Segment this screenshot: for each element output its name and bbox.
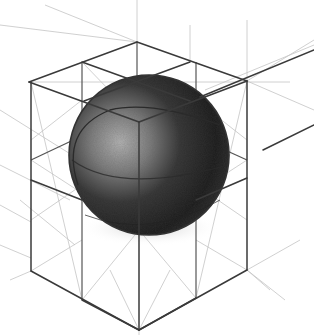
pencil-drawing: [0, 0, 314, 335]
sphere: [69, 75, 229, 235]
